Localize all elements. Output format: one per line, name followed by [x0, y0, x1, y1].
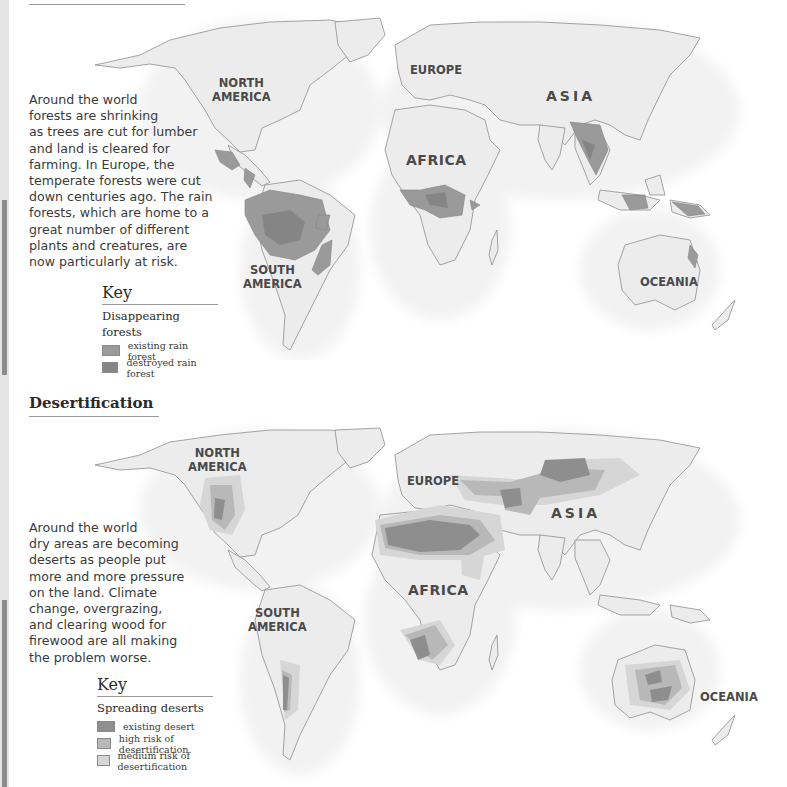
- key-rule: [102, 304, 218, 305]
- blurb-line: on the land. Climate: [29, 585, 184, 601]
- key-title: Key: [97, 675, 213, 695]
- blurb-line: more and more pressure: [29, 569, 184, 585]
- blurb-line: forests are shrinking: [29, 108, 213, 124]
- swatch-medium-risk: [97, 755, 110, 766]
- key-label: existing desert: [123, 721, 195, 732]
- forest-label-africa: AFRICA: [406, 153, 467, 167]
- forest-label-south-america: SOUTH AMERICA: [243, 263, 302, 291]
- blurb-line: now particularly at risk.: [29, 254, 213, 270]
- swatch-existing-desert: [97, 721, 115, 732]
- label-line: AMERICA: [188, 460, 247, 474]
- desert-blurb: Around the world dry areas are becoming …: [29, 520, 184, 666]
- blurb-line: as trees are cut for lumber: [29, 124, 213, 140]
- blurb-line: farming. In Europe, the: [29, 157, 213, 173]
- forest-label-oceania: OCEANIA: [640, 275, 698, 289]
- blurb-line: and land is cleared for: [29, 141, 213, 157]
- blurb-line: change, overgrazing,: [29, 601, 184, 617]
- key-label: medium risk of desertification: [118, 750, 213, 772]
- label-line: SOUTH: [243, 263, 302, 277]
- key-subtitle: Disappearing forests: [102, 308, 218, 340]
- desert-label-north-america: NORTH AMERICA: [188, 446, 247, 474]
- key-label: destroyed rain forest: [126, 357, 218, 379]
- desert-label-europe: EUROPE: [407, 474, 459, 488]
- forest-key: Key Disappearing forests existing rain f…: [102, 283, 218, 376]
- blurb-line: Around the world: [29, 520, 184, 536]
- blurb-line: firewood are all making: [29, 633, 184, 649]
- swatch-destroyed-rain-forest: [102, 362, 118, 373]
- blurb-line: the problem worse.: [29, 650, 184, 666]
- label-line: AMERICA: [248, 620, 307, 634]
- blurb-line: great number of different: [29, 222, 213, 238]
- blurb-line: dry areas are becoming: [29, 536, 184, 552]
- key-item-destroyed-rain-forest: destroyed rain forest: [102, 359, 218, 376]
- blurb-line: and clearing wood for: [29, 617, 184, 633]
- desert-label-oceania: OCEANIA: [700, 690, 758, 704]
- forest-blurb: Around the world forests are shrinking a…: [29, 92, 213, 270]
- label-line: NORTH: [188, 446, 247, 460]
- label-line: AMERICA: [212, 90, 271, 104]
- section-rule: [29, 416, 159, 417]
- desert-label-africa: AFRICA: [408, 583, 469, 597]
- swatch-existing-rain-forest: [102, 345, 120, 356]
- blurb-line: deserts as people put: [29, 552, 184, 568]
- desert-key: Key Spreading deserts existing desert hi…: [97, 675, 213, 769]
- blurb-line: temperate forests were cut: [29, 173, 213, 189]
- label-line: AMERICA: [243, 277, 302, 291]
- key-subtitle: Spreading deserts: [97, 700, 213, 716]
- forest-label-europe: EUROPE: [410, 63, 462, 77]
- desert-label-asia: ASIA: [551, 506, 600, 520]
- blurb-line: plants and creatures, are: [29, 238, 213, 254]
- blurb-line: Around the world: [29, 92, 213, 108]
- section-title-desertification: Desertification: [29, 394, 153, 412]
- key-rule: [97, 696, 213, 697]
- blurb-line: down centuries ago. The rain: [29, 189, 213, 205]
- blurb-line: forests, which are home to a: [29, 205, 213, 221]
- forest-label-asia: ASIA: [546, 89, 595, 103]
- forest-label-north-america: NORTH AMERICA: [212, 76, 271, 104]
- key-item-medium-risk: medium risk of desertification: [97, 752, 213, 769]
- desert-label-south-america: SOUTH AMERICA: [248, 606, 307, 634]
- swatch-high-risk: [97, 738, 111, 749]
- label-line: NORTH: [212, 76, 271, 90]
- key-title: Key: [102, 283, 218, 303]
- label-line: SOUTH: [248, 606, 307, 620]
